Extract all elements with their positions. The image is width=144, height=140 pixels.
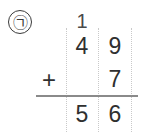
addend-bottom-ones-digit: 7 — [99, 68, 131, 91]
addend-top-ones-digit: 9 — [99, 35, 131, 58]
carry-digit-tens: 1 — [66, 11, 98, 31]
plus-operator-icon: + — [36, 68, 62, 92]
vertical-addition-worksheet: ㉠ 1 4 9 + 7 5 6 — [0, 0, 144, 140]
problem-marker-label: ㉠ — [13, 14, 28, 29]
circled-korean-giyeok-icon: ㉠ — [8, 10, 32, 34]
addend-top-tens-digit: 4 — [66, 35, 98, 58]
column-guide-right — [131, 28, 132, 132]
sum-tens-digit: 5 — [66, 103, 98, 126]
sum-rule-divider — [36, 95, 138, 97]
sum-ones-digit: 6 — [99, 103, 131, 126]
